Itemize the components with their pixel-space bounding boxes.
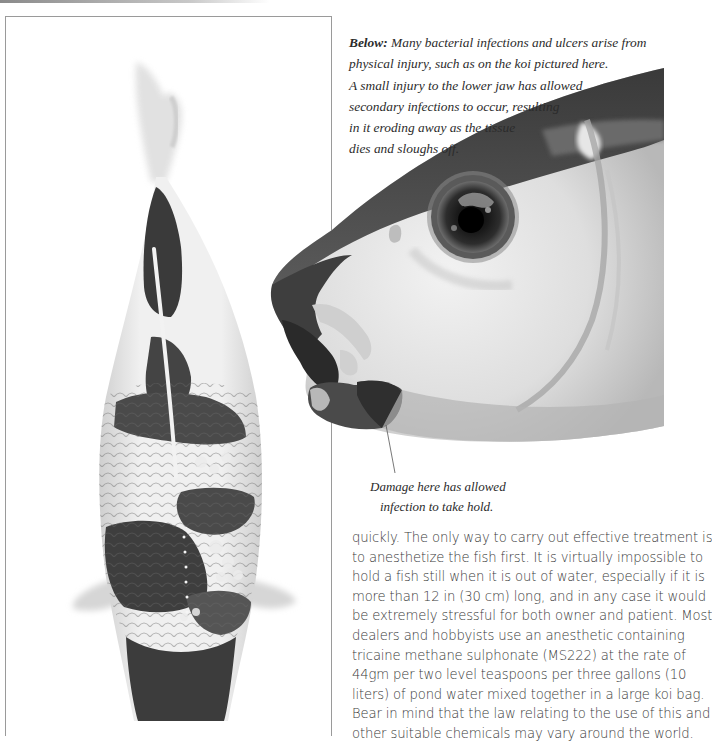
annotation-line-2: infection to take hold. bbox=[370, 497, 570, 517]
caption-line-4: secondary infections to occur, resulting bbox=[349, 96, 649, 117]
body-line: tricaine methane sulphonate (MS222) at t… bbox=[352, 646, 682, 666]
body-line: other suitable chemicals may vary around… bbox=[352, 724, 682, 744]
caption-lead: Below: bbox=[349, 35, 388, 50]
photo-caption: Below: Many bacterial infections and ulc… bbox=[349, 32, 649, 160]
annotation-line-1: Damage here has allowed bbox=[370, 477, 570, 497]
caption-line-3: A small injury to the lower jaw has allo… bbox=[349, 75, 649, 96]
caption-line-5: in it eroding away as the tissue bbox=[349, 117, 649, 138]
body-line: be extremely stressful for both owner an… bbox=[352, 606, 682, 626]
body-line: Bear in mind that the law relating to th… bbox=[352, 704, 682, 724]
body-line: more than 12 in (30 cm) long, and in any… bbox=[352, 587, 682, 607]
body-line: hold a fish still when it is out of wate… bbox=[352, 567, 682, 587]
body-line: liters) of pond water mixed together in … bbox=[352, 685, 682, 705]
page-top-edge bbox=[0, 0, 270, 3]
body-line: 44gm per two level teaspoons per three g… bbox=[352, 665, 682, 685]
body-paragraph: quickly. The only way to carry out effec… bbox=[352, 528, 682, 744]
body-line: dealers and hobbyists use an anesthetic … bbox=[352, 626, 682, 646]
body-line: quickly. The only way to carry out effec… bbox=[352, 528, 682, 548]
body-line: to anesthetize the fish first. It is vir… bbox=[352, 548, 682, 568]
caption-line-1: Below: Many bacterial infections and ulc… bbox=[349, 32, 649, 53]
caption-line-6: dies and sloughs off. bbox=[349, 138, 649, 159]
caption-line-2: physical injury, such as on the koi pict… bbox=[349, 53, 649, 74]
injury-annotation: Damage here has allowed infection to tak… bbox=[370, 477, 570, 517]
